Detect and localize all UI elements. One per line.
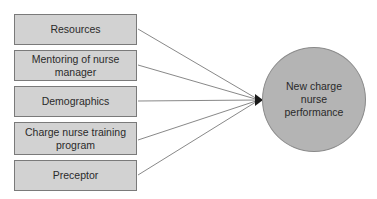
factor-label: Charge nurse training program [21, 126, 131, 152]
connector-demographics [138, 100, 259, 101]
factor-box-mentoring: Mentoring of nurse manager [14, 50, 137, 81]
factor-label: Preceptor [53, 169, 99, 182]
factor-label: Demographics [42, 95, 110, 108]
factor-box-resources: Resources [14, 14, 137, 45]
factor-box-demographics: Demographics [14, 86, 137, 117]
outcome-circle: New charge nurse performance [262, 47, 366, 152]
factor-box-preceptor: Preceptor [14, 160, 137, 191]
connector-preceptor [138, 100, 259, 175]
factor-label: Mentoring of nurse manager [26, 53, 126, 79]
outcome-label: New charge nurse performance [279, 80, 349, 119]
connector-training [138, 100, 259, 140]
factor-box-training: Charge nurse training program [14, 122, 137, 155]
connector-resources [138, 29, 259, 100]
factor-label: Resources [50, 23, 100, 36]
connector-mentoring [138, 65, 259, 100]
